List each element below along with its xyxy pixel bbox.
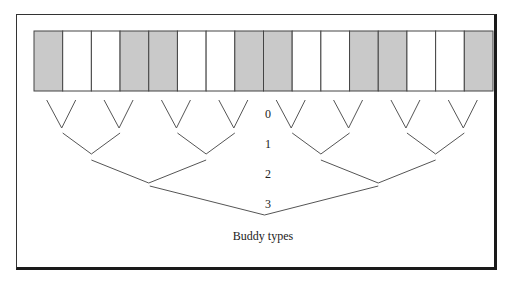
memory-blocks [34,31,493,91]
level-label-3: 3 [265,197,271,211]
memory-block-unshaded [407,31,436,91]
level-0-merge [448,100,477,128]
memory-block-shaded [34,31,63,91]
level-0-merge [219,100,248,128]
level-label-2: 2 [265,167,271,181]
level-1-merge [292,133,349,154]
memory-block-unshaded [206,31,235,91]
memory-block-shaded [264,31,293,91]
level-0-merge [334,100,363,128]
memory-block-unshaded [91,31,120,91]
level-1-merge [63,133,120,154]
memory-block-unshaded [177,31,206,91]
memory-block-shaded [120,31,149,91]
level-0-merge [391,100,420,128]
level-0-merge [161,100,190,128]
level-label-1: 1 [265,137,271,151]
memory-block-unshaded [321,31,350,91]
memory-block-shaded [350,31,379,91]
level-2-merge [321,160,436,183]
memory-block-shaded [464,31,493,91]
level-labels: 0 1 2 3 Buddy types [233,107,294,243]
memory-block-unshaded [63,31,92,91]
buddy-tree [47,100,478,215]
level-0-merge [104,100,133,128]
level-3-merge [150,186,379,215]
level-0-merge [47,100,76,128]
buddy-diagram: 0 1 2 3 Buddy types [0,0,515,287]
caption: Buddy types [233,229,294,243]
memory-block-shaded [235,31,264,91]
level-2-merge [91,160,206,183]
level-1-merge [407,133,464,154]
level-1-merge [177,133,234,154]
memory-block-shaded [149,31,178,91]
level-label-0: 0 [265,107,271,121]
memory-block-shaded [378,31,407,91]
memory-block-unshaded [436,31,465,91]
level-0-merge [276,100,305,128]
memory-block-unshaded [292,31,321,91]
